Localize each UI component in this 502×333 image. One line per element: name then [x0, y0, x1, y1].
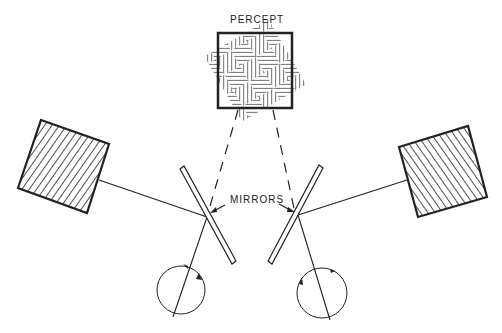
left-mirror	[180, 166, 236, 264]
left-eye	[157, 264, 205, 314]
right-eye-ray	[298, 215, 330, 320]
right-stimulus-square	[399, 126, 487, 217]
mirrors-label: MIRRORS	[230, 194, 284, 205]
mirrors-pointer-arrows	[210, 204, 295, 213]
left-stimulus-square	[18, 120, 109, 213]
percept-label: PERCEPT	[230, 14, 284, 25]
stereoscope-diagram: PERCEPT MIRRORS	[0, 0, 502, 333]
right-mirror	[268, 165, 323, 264]
